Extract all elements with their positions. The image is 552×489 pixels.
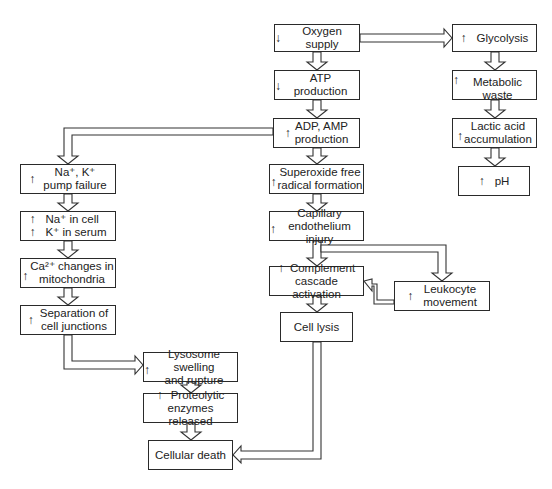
node-pump-failure: ↑ Na⁺, K⁺ pump failure: [20, 164, 116, 194]
increase-arrow-icon: ↑: [285, 127, 291, 140]
increase-arrow-icon: ↑: [29, 173, 35, 186]
increase-arrow-icon: ↑: [157, 389, 163, 402]
increase-arrow-icon: ↑: [28, 314, 34, 327]
node-proteolytic-enzymes: ↑Proteolytic enzymes released: [143, 393, 238, 423]
increase-arrow-icon: ↑: [407, 290, 413, 303]
node-lysosome-swelling: ↑ Lysosome swelling and rupture: [143, 352, 238, 382]
node-cellular-death: Cellular death: [148, 440, 233, 470]
node-lactic-acid-accumulation: ↑ Lactic acid accumulation: [452, 118, 537, 148]
node-superoxide-free-radical: ↑ Superoxide free radical formation: [269, 164, 364, 194]
increase-arrow-icon: ↑: [479, 175, 485, 188]
decrease-arrow-icon: ↓: [275, 80, 281, 93]
node-cell-lysis: Cell lysis: [280, 312, 353, 342]
node-capillary-endothelium-injury: ↑ Capillary endothelium injury: [269, 211, 364, 241]
increase-arrow-icon: ↑: [30, 226, 36, 239]
node-glycolysis: ↑ Glycolysis: [452, 24, 537, 52]
node-atp-production: ↓ ATP production: [274, 70, 360, 100]
increase-arrow-icon: ↑: [144, 364, 150, 377]
node-leukocyte-movement: ↑ Leukocyte movement: [394, 281, 490, 311]
increase-arrow-icon: ↑: [22, 270, 28, 283]
node-metabolic-waste: ↑ Metabolic waste: [452, 70, 537, 100]
node-adp-amp-production: ↑ ADP, AMP production: [273, 118, 360, 148]
node-oxygen-supply: ↓ Oxygen supply: [274, 24, 360, 52]
increase-arrow-icon: ↑: [270, 176, 276, 189]
decrease-arrow-icon: ↓: [275, 32, 281, 45]
increase-arrow-icon: ↑: [278, 262, 284, 275]
increase-arrow-icon: ↑: [457, 130, 463, 143]
node-complement-cascade: ↑Complement cascade activation: [269, 266, 364, 296]
node-na-in-cell-k-in-serum: ↑Na⁺ in cell ↑K⁺ in serum: [20, 211, 116, 241]
increase-arrow-icon: ↑: [461, 32, 467, 45]
node-calcium-changes: ↑ Ca²⁺ changes in mitochondria: [20, 258, 116, 288]
flowchart: ↓ Oxygen supply ↑ Glycolysis ↓ ATP produ…: [0, 0, 552, 489]
node-separation-cell-junctions: ↑ Separation of cell junctions: [20, 305, 116, 335]
node-ph: ↑ pH: [458, 166, 530, 196]
